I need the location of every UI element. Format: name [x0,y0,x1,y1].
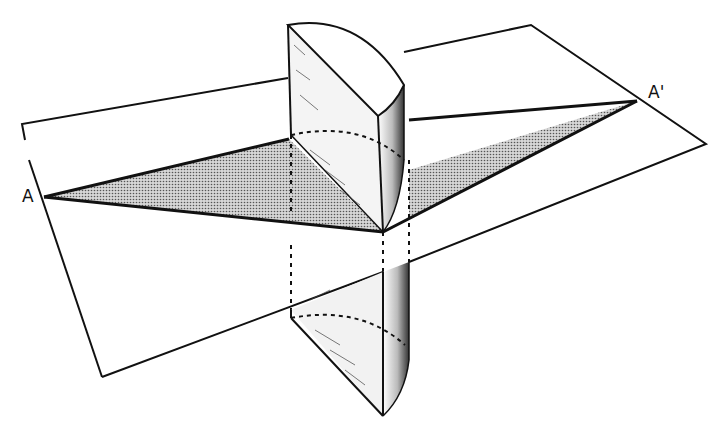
geometry-diagram [0,0,715,424]
label-point-a-prime: A' [648,84,664,101]
label-point-a: A [22,188,34,205]
